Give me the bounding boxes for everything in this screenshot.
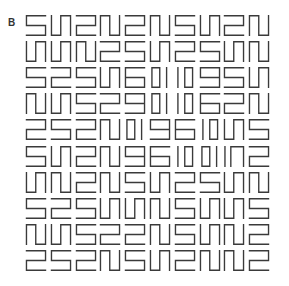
- glyph-nine-icon: [124, 145, 146, 168]
- glyph-tile: [199, 118, 221, 141]
- glyph-u-icon: [199, 223, 221, 246]
- glyph-p-icon: [99, 145, 121, 168]
- glyph-nine-icon: [149, 118, 171, 141]
- glyph-tile: [174, 171, 196, 194]
- glyph-tile: [199, 145, 221, 168]
- glyph-baro-icon: [199, 118, 221, 141]
- glyph-s-icon: [174, 223, 196, 246]
- glyph-tile: [199, 92, 221, 115]
- glyph-tile: [199, 66, 221, 89]
- glyph-tile: [99, 118, 121, 141]
- glyph-tile: [248, 145, 270, 168]
- glyph-s-icon: [25, 197, 47, 220]
- glyph-u-icon: [50, 40, 72, 63]
- glyph-z-icon: [50, 197, 72, 220]
- glyph-six-icon: [174, 118, 196, 141]
- glyph-tile: [174, 92, 196, 115]
- glyph-tile: [174, 249, 196, 272]
- glyph-tile: [124, 223, 146, 246]
- glyph-tile: [174, 145, 196, 168]
- glyph-obar-icon: [199, 145, 221, 168]
- glyph-tile: [25, 171, 47, 194]
- glyph-tile: [248, 197, 270, 220]
- glyph-nine-icon: [199, 66, 221, 89]
- glyph-tile: [99, 171, 121, 194]
- glyph-s-icon: [25, 14, 47, 37]
- glyph-z-icon: [248, 223, 270, 246]
- glyph-s-icon: [124, 40, 146, 63]
- glyph-z-icon: [50, 66, 72, 89]
- glyph-z-icon: [223, 92, 245, 115]
- glyph-z-icon: [75, 171, 97, 194]
- glyph-tile: [223, 145, 245, 168]
- glyph-tile: [248, 223, 270, 246]
- glyph-tile: [149, 14, 171, 37]
- glyph-z-icon: [75, 14, 97, 37]
- glyph-s-icon: [75, 92, 97, 115]
- glyph-tile: [149, 40, 171, 63]
- glyph-tile: [149, 92, 171, 115]
- glyph-tile: [25, 197, 47, 220]
- glyph-baro-icon: [174, 66, 196, 89]
- glyph-tile: [149, 249, 171, 272]
- glyph-z-icon: [75, 118, 97, 141]
- glyph-tile: [50, 14, 72, 37]
- glyph-tile: [149, 118, 171, 141]
- glyph-tile: [25, 14, 47, 37]
- glyph-p-icon: [149, 197, 171, 220]
- glyph-z-icon: [248, 145, 270, 168]
- glyph-tile: [124, 118, 146, 141]
- glyph-u-icon: [50, 92, 72, 115]
- glyph-tile: [149, 66, 171, 89]
- glyph-tile: [25, 249, 47, 272]
- glyph-p-icon: [248, 40, 270, 63]
- glyph-tile: [199, 197, 221, 220]
- glyph-tile: [75, 92, 97, 115]
- glyph-tile: [174, 197, 196, 220]
- glyph-z-icon: [25, 118, 47, 141]
- glyph-tile: [199, 223, 221, 246]
- glyph-tile: [174, 118, 196, 141]
- glyph-tile: [25, 66, 47, 89]
- glyph-ip-icon: [223, 145, 245, 168]
- glyph-p-icon: [50, 171, 72, 194]
- glyph-tile: [149, 223, 171, 246]
- glyph-u-icon: [149, 171, 171, 194]
- glyph-tile: [124, 40, 146, 63]
- glyph-tile: [124, 14, 146, 37]
- glyph-tile: [99, 66, 121, 89]
- glyph-tile: [50, 171, 72, 194]
- glyph-tile: [50, 92, 72, 115]
- glyph-s-icon: [174, 197, 196, 220]
- glyph-s-icon: [199, 171, 221, 194]
- glyph-z-icon: [124, 14, 146, 37]
- glyph-z-icon: [174, 249, 196, 272]
- glyph-u-icon: [25, 40, 47, 63]
- glyph-u-icon: [50, 223, 72, 246]
- glyph-tile: [149, 171, 171, 194]
- glyph-p-icon: [149, 14, 171, 37]
- glyph-s-icon: [75, 223, 97, 246]
- glyph-tile: [223, 40, 245, 63]
- glyph-u-icon: [149, 40, 171, 63]
- glyph-tile: [75, 223, 97, 246]
- glyph-tile: [199, 171, 221, 194]
- glyph-p-icon: [199, 249, 221, 272]
- glyph-six-icon: [149, 145, 171, 168]
- glyph-p-icon: [75, 40, 97, 63]
- glyph-tile: [223, 118, 245, 141]
- glyph-tile: [50, 249, 72, 272]
- glyph-tile: [223, 14, 245, 37]
- glyph-tile: [50, 197, 72, 220]
- glyph-tile: [248, 92, 270, 115]
- glyph-tile: [174, 14, 196, 37]
- glyph-p-icon: [248, 14, 270, 37]
- glyph-u-icon: [99, 66, 121, 89]
- glyph-tile: [124, 92, 146, 115]
- glyph-nine-icon: [124, 92, 146, 115]
- glyph-tile: [75, 118, 97, 141]
- glyph-s-icon: [124, 171, 146, 194]
- glyph-tile: [99, 145, 121, 168]
- glyph-tile: [124, 171, 146, 194]
- glyph-baro-icon: [174, 145, 196, 168]
